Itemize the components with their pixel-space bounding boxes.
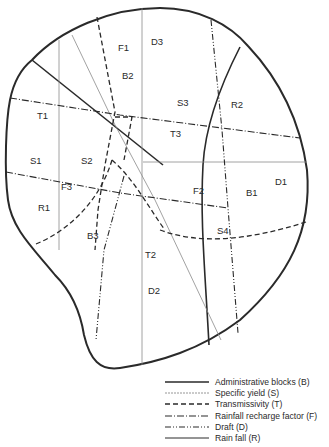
zone-label-t2: T2 bbox=[145, 249, 156, 260]
legend-label: Specific yield (S) bbox=[215, 388, 279, 398]
zone-label-d3: D3 bbox=[151, 36, 163, 47]
admin-block-lines bbox=[32, 47, 240, 345]
zone-label-s1: S1 bbox=[30, 155, 42, 166]
zone-label-t3: T3 bbox=[170, 128, 181, 139]
zone-label-t1: T1 bbox=[37, 110, 48, 121]
zone-label-f2: F2 bbox=[193, 185, 204, 196]
zone-label-b1: B1 bbox=[246, 187, 258, 198]
legend-item-rainfall-recharge: Rainfall recharge factor (F) bbox=[165, 410, 329, 421]
dotted-thin-line-icon bbox=[165, 390, 209, 396]
zone-label-b2: B2 bbox=[122, 70, 134, 81]
legend-label: Rainfall recharge factor (F) bbox=[215, 411, 317, 421]
legend-item-draft: Draft (D) bbox=[165, 421, 329, 432]
legend-label: Rain fall (R) bbox=[215, 433, 260, 443]
zone-label-s4: S4 bbox=[217, 225, 229, 236]
zone-label-r1: R1 bbox=[38, 202, 50, 213]
zone-label-s2: S2 bbox=[81, 155, 93, 166]
legend-label: Transmissivity (T) bbox=[215, 399, 282, 409]
legend-item-rain-fall: Rain fall (R) bbox=[165, 432, 329, 443]
area-boundary bbox=[6, 8, 308, 368]
zone-label-f3: F3 bbox=[61, 181, 72, 192]
dash-dot-line-icon bbox=[165, 413, 209, 419]
legend-item-transmissivity: Transmissivity (T) bbox=[165, 399, 329, 410]
dashed-line-icon bbox=[165, 401, 209, 407]
legend-label: Administrative blocks (B) bbox=[215, 377, 310, 387]
zone-label-r2: R2 bbox=[231, 99, 243, 110]
zone-label-s3: S3 bbox=[177, 97, 189, 108]
legend-label: Draft (D) bbox=[215, 422, 248, 432]
legend: Administrative blocks (B) Specific yield… bbox=[165, 376, 329, 444]
zone-label-d2: D2 bbox=[148, 285, 160, 296]
zone-label-b3: B3 bbox=[87, 230, 99, 241]
solid-thick-line-icon bbox=[165, 379, 209, 385]
dash-dot-dot-line-icon bbox=[165, 424, 209, 430]
solid-thin-line-icon bbox=[165, 435, 209, 441]
zone-label-f1: F1 bbox=[118, 42, 129, 53]
legend-item-admin-blocks: Administrative blocks (B) bbox=[165, 376, 329, 387]
legend-item-specific-yield: Specific yield (S) bbox=[165, 387, 329, 398]
specific-yield-lines bbox=[59, 8, 307, 365]
zone-label-d1: D1 bbox=[275, 176, 287, 187]
draft-lines bbox=[96, 20, 238, 340]
zone-labels: F1 D3 B2 S3 R2 T1 T3 S1 S2 F3 F2 B1 D1 R… bbox=[30, 36, 287, 296]
